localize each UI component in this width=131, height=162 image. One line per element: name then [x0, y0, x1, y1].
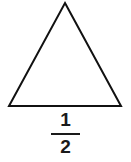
figure-canvas: 1 2	[0, 0, 131, 162]
triangle-shape-layer	[0, 0, 131, 112]
triangle-icon	[9, 3, 121, 106]
fraction-bar	[51, 133, 80, 135]
fraction-numerator: 1	[60, 110, 71, 130]
fraction-label: 1 2	[0, 110, 131, 157]
fraction-denominator: 2	[60, 137, 71, 157]
